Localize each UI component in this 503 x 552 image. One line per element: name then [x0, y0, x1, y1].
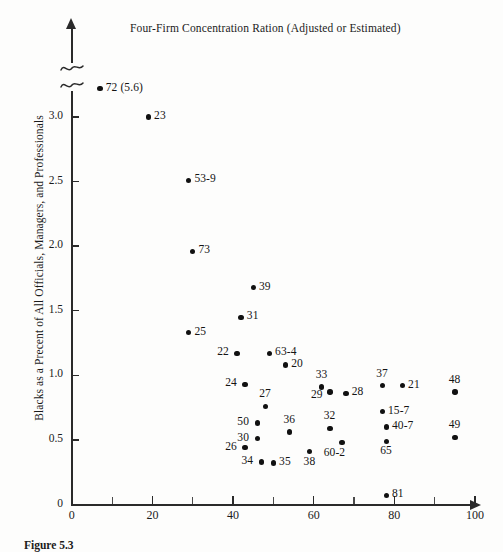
y-axis-break-icon [59, 63, 85, 91]
data-point [186, 178, 191, 183]
data-point [384, 493, 389, 498]
data-point-label: 34 [241, 454, 253, 466]
data-point-label: 39 [259, 280, 271, 292]
data-point [146, 114, 151, 119]
data-point-label: 24 [225, 376, 237, 388]
data-point [263, 404, 268, 409]
data-point-label: 50 [237, 415, 249, 427]
data-point [327, 389, 332, 394]
data-point-label: 63-4 [275, 345, 296, 357]
data-point-label: 28 [352, 385, 364, 397]
data-point [186, 330, 191, 335]
data-point [242, 382, 247, 387]
data-point-label: 60-2 [324, 446, 345, 458]
data-point [255, 436, 260, 441]
data-point [307, 449, 312, 454]
x-tick-label: 40 [213, 508, 253, 523]
x-tick-mark [474, 496, 475, 505]
x-tick-label: 100 [455, 508, 495, 523]
data-point-label: 15-7 [388, 404, 409, 416]
x-minor-tick-mark [434, 497, 435, 504]
data-point-label: 26 [225, 440, 237, 452]
data-point [380, 383, 385, 388]
data-point [255, 420, 260, 425]
data-point [343, 391, 348, 396]
data-point-label: 48 [449, 373, 461, 385]
y-tick-mark [71, 439, 79, 440]
data-point [234, 351, 239, 356]
data-point-label: 36 [283, 413, 295, 425]
data-point [267, 351, 272, 356]
x-tick-label: 60 [294, 508, 334, 523]
data-point-label: 20 [291, 357, 303, 369]
chart-title: Four-Firm Concentration Ration (Adjusted… [130, 22, 490, 34]
x-tick-label: 0 [52, 508, 92, 523]
data-point-label: 81 [392, 487, 404, 499]
data-point [271, 460, 276, 465]
data-point [97, 86, 102, 91]
data-point-label: 30 [237, 431, 249, 443]
data-point [238, 315, 243, 320]
x-tick-mark [313, 496, 314, 505]
x-tick-mark [232, 496, 233, 505]
data-point [283, 362, 288, 367]
data-point-label: 29 [311, 388, 323, 400]
y-tick-mark [71, 181, 79, 182]
data-point [327, 426, 332, 431]
data-point [190, 249, 195, 254]
y-tick-mark [71, 310, 79, 311]
x-tick-mark [71, 496, 72, 505]
data-point-label: 49 [449, 418, 461, 430]
data-point-label: 65 [380, 444, 392, 456]
x-tick-label: 20 [132, 508, 172, 523]
data-point [380, 409, 385, 414]
data-point-label: 21 [408, 378, 420, 390]
data-point-label: 38 [304, 455, 316, 467]
data-point [384, 439, 389, 444]
data-point-label: 27 [259, 387, 271, 399]
data-point [259, 459, 264, 464]
data-point-label: 53-9 [194, 172, 215, 184]
x-minor-tick-mark [192, 497, 193, 504]
data-point [452, 435, 457, 440]
x-minor-tick-mark [112, 497, 113, 504]
scatter-plot-figure: Four-Firm Concentration Ration (Adjusted… [0, 0, 503, 552]
data-point-label: 33 [316, 368, 328, 380]
y-tick-label: 0 [17, 497, 63, 509]
data-point-label: 32 [324, 409, 336, 421]
y-tick-mark [71, 116, 79, 117]
data-point-label: 23 [154, 109, 166, 121]
data-point [384, 424, 389, 429]
x-minor-tick-mark [353, 497, 354, 504]
x-tick-mark [152, 496, 153, 505]
y-axis-title: Blacks as a Precent of All Officials, Ma… [33, 43, 45, 493]
y-tick-mark [71, 375, 79, 376]
data-point-label: 25 [194, 325, 206, 337]
y-axis-line [71, 27, 73, 506]
y-axis-arrow-icon [66, 18, 76, 29]
data-point-label: 37 [376, 367, 388, 379]
data-point [242, 445, 247, 450]
data-point [287, 429, 292, 434]
data-point [251, 285, 256, 290]
data-point-label: 40-7 [392, 419, 413, 431]
data-point-label: 22 [217, 345, 229, 357]
data-point-label: 72 (5.6) [106, 81, 143, 93]
x-minor-tick-mark [273, 497, 274, 504]
figure-caption: Figure 5.3 [24, 539, 74, 552]
y-tick-mark [71, 245, 79, 246]
data-point [339, 440, 344, 445]
data-point [400, 383, 405, 388]
x-tick-label: 80 [374, 508, 414, 523]
x-axis-line [71, 504, 475, 506]
data-point-label: 73 [198, 243, 210, 255]
data-point-label: 35 [279, 455, 291, 467]
data-point-label: 31 [247, 309, 259, 321]
data-point [452, 389, 457, 394]
